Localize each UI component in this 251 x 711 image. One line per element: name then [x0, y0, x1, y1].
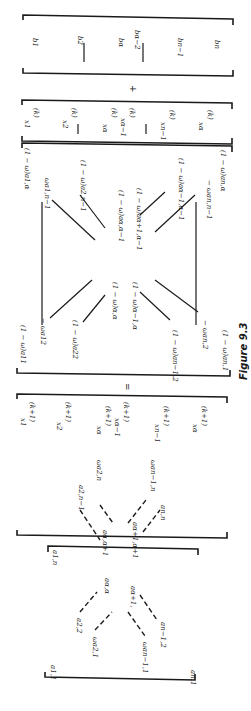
xk1-superscript: (k+1): [122, 402, 130, 422]
xk-entry: xn−1: [159, 122, 166, 141]
matrix-entry: (1 − ω)aα,α−1: [117, 190, 124, 242]
xk1-superscript: (k+1): [104, 406, 112, 426]
plus-sign: +: [128, 85, 138, 93]
matrix-entry: a1,n: [51, 550, 58, 565]
matrix-entry: aα+1,: [129, 586, 136, 607]
xk1-superscript: (k+1): [162, 406, 170, 426]
b-vector-bracket-left: [23, 68, 233, 76]
xk1-entry: xα: [191, 424, 198, 433]
matrix-entry: (1 − ω)an,α: [219, 150, 226, 192]
left-matrix-bracket-right: [48, 546, 198, 555]
b-entry: bn−1: [176, 38, 183, 57]
xk1-superscript: (k+1): [200, 406, 208, 426]
matrix-entry: (1 − ω)α−1,α: [131, 282, 138, 330]
matrix-entry: (1 − ω)an,1: [221, 330, 228, 371]
matrix-entry: aα,α: [103, 578, 110, 594]
matrix-entry: (1 − ω)a2,n−1: [79, 160, 86, 212]
matrix-entry: an−1,2: [159, 622, 166, 648]
xk-superscript: (k): [168, 110, 176, 120]
xk1-superscript: (k+1): [64, 402, 72, 422]
matrix-entry: a1,1: [49, 665, 56, 680]
xk1-vector-bracket-left: [17, 530, 227, 538]
matrix-entry: − ωan,2: [201, 320, 208, 349]
xk-superscript: (k): [128, 108, 136, 118]
figure-caption: Figure 9.3: [238, 323, 249, 380]
matrix-entry: aα,α+1: [101, 530, 108, 556]
b-vector-bracket-right: [23, 15, 233, 25]
xk1-superscript: (k+1): [28, 402, 36, 422]
b-entry: bn: [213, 40, 220, 49]
b-entry: b1: [31, 38, 38, 47]
xk1-entry: xn−1: [153, 424, 160, 443]
matrix-entry: ωa1,n−1: [43, 178, 50, 209]
matrix-entry: (1 − ω)aα+1,α−1: [135, 188, 142, 250]
matrix-entry: aα+1,α+1: [131, 522, 138, 559]
xk1-entry: x1: [19, 418, 26, 426]
xk-entry: xα−1: [119, 118, 126, 137]
matrix-entry: ωa2,n: [95, 460, 102, 481]
b-entry: bα−2: [133, 30, 140, 50]
xk-entry: x1: [23, 120, 30, 128]
figure-lines: [0, 0, 251, 711]
xk1-entry: x2: [55, 422, 62, 430]
matrix-entry: ωan−1,1: [141, 642, 148, 673]
equals-sign: =: [122, 383, 132, 391]
matrix-bracket-left: [17, 368, 230, 376]
xk1-entry: xα: [95, 426, 102, 435]
xk-entry: x2: [61, 120, 68, 128]
matrix-entry: ωan−1,n: [149, 460, 156, 491]
b-entry: b2: [76, 36, 83, 45]
xk-entry: xα: [101, 124, 108, 133]
matrix-entry: (1 − ω)a11: [19, 325, 26, 364]
matrix-entry: (1 − ω)a22: [71, 320, 78, 359]
matrix-entry: an,n: [159, 505, 166, 520]
xk-superscript: (k): [32, 108, 40, 118]
b-entry: bα: [117, 38, 124, 47]
xk-entry: xα: [197, 122, 204, 131]
matrix-entry: (1 − ω)a1,α: [23, 148, 30, 190]
matrix-entry: − ωan,n−1: [205, 180, 212, 220]
xk1-entry: xα−1: [113, 418, 120, 437]
xk-superscript: (k): [110, 108, 118, 118]
matrix-entry: an,1: [189, 670, 196, 685]
matrix-entry: a2,2: [75, 618, 82, 633]
left-matrix-bracket-left: [45, 672, 195, 680]
matrix-entry: (1 − ω)aα−1,α−1: [177, 158, 184, 220]
matrix-entry: − ωa12: [39, 318, 46, 345]
xk-superscript: (k): [206, 110, 214, 120]
xk-superscript: (k): [70, 108, 78, 118]
matrix-entry: (1 − ω)an−1,2: [171, 330, 178, 382]
matrix-entry: (1 − ω)α,α: [111, 282, 118, 320]
matrix-entry: a2,n−1: [77, 485, 84, 511]
xk-vector-bracket-right: [22, 100, 232, 109]
matrix-entry: ωa2,1: [91, 637, 98, 658]
